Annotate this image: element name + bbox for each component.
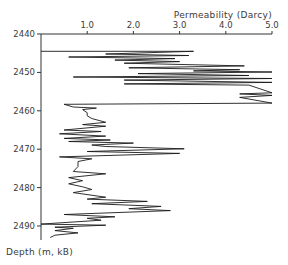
y-tick-label: 2460 [13,106,35,116]
x-tick-label: 4.0 [219,20,233,30]
y-tick-label: 2440 [13,29,35,39]
x-tick-label: 1.0 [80,20,94,30]
y-axis: 244024502460247024802490 [13,29,41,240]
y-tick-label: 2450 [13,67,35,77]
y-tick-label: 2480 [13,183,35,193]
x-tick-label: 5.0 [265,20,279,30]
y-tick-label: 2490 [13,221,35,231]
y-tick-label: 2470 [13,144,35,154]
permeability-depth-chart: 1.02.03.04.05.0 244024502460247024802490… [0,0,288,265]
permeability-trace [41,51,272,237]
x-axis-title: Permeability (Darcy) [174,10,272,20]
x-tick-label: 3.0 [173,20,187,30]
x-axis: 1.02.03.04.05.0 [41,20,279,34]
y-axis-title: Depth (m, kB) [6,247,73,257]
x-tick-label: 2.0 [127,20,141,30]
